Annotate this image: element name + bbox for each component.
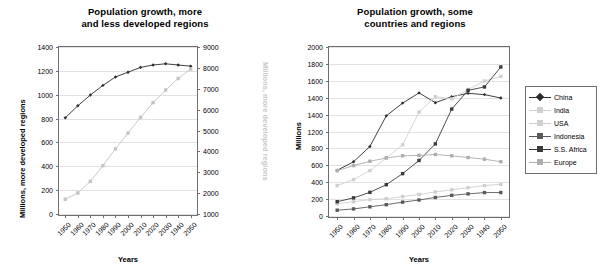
legend-key-square-icon xyxy=(529,157,551,168)
x-axis-tick-mark xyxy=(78,215,79,218)
x-axis-tick-mark xyxy=(191,215,192,218)
right-chart-x-axis-label: Years xyxy=(328,255,510,264)
x-axis-tick-mark xyxy=(386,217,387,220)
x-axis-tick-mark xyxy=(403,217,404,220)
legend-key-marker xyxy=(536,93,544,101)
legend-item-label: USA xyxy=(551,119,568,128)
secondary-y-axis-tick-mark xyxy=(197,89,200,90)
legend-item-china[interactable]: China xyxy=(529,91,593,104)
legend-key-square-icon xyxy=(529,118,551,129)
left-chart-title: Population growth, more and less develop… xyxy=(0,6,290,30)
secondary-y-axis-tick-label: 5000 xyxy=(203,128,219,135)
right-chart-title-line1: Population growth, some xyxy=(285,6,545,18)
secondary-y-axis-tick-mark xyxy=(197,214,200,215)
y-axis-tick-label: 1200 xyxy=(307,129,323,136)
x-axis-tick-mark xyxy=(90,215,91,218)
x-axis-tick-label: 1970 xyxy=(81,221,97,237)
x-axis-tick-mark xyxy=(337,217,338,220)
left-chart-panel: Population growth, more and less develop… xyxy=(0,0,290,276)
secondary-y-axis-tick-label: 4000 xyxy=(203,148,219,155)
x-axis-tick-label: 2030 xyxy=(459,223,475,239)
right-chart-y-axis-label: Millions xyxy=(294,122,303,150)
secondary-y-axis-tick-mark xyxy=(197,172,200,173)
y-axis-tick-label: 400 xyxy=(41,163,53,170)
y-axis-tick-label: 1400 xyxy=(307,112,323,119)
x-axis-tick-mark xyxy=(65,215,66,218)
x-axis-tick-mark xyxy=(141,215,142,218)
secondary-y-axis-tick-mark xyxy=(197,193,200,194)
secondary-y-axis-tick-label: 7000 xyxy=(203,86,219,93)
secondary-y-axis-tick-mark xyxy=(197,110,200,111)
y-axis-tick-label: 1800 xyxy=(307,61,323,68)
y-axis-tick-label: 0 xyxy=(319,213,323,220)
y-axis-tick-label: 200 xyxy=(41,187,53,194)
legend-item-label: S.S. Africa xyxy=(551,145,587,154)
legend-item-label: India xyxy=(551,106,569,115)
y-axis-tick-label: 1200 xyxy=(37,68,53,75)
x-axis-tick-mark xyxy=(178,215,179,218)
series-layer xyxy=(329,47,509,217)
left-chart-y-axis-label: Millions, more developed regions xyxy=(18,99,27,218)
x-axis-tick-mark xyxy=(419,217,420,220)
y-axis-tick-label: 200 xyxy=(311,196,323,203)
x-axis-tick-label: 2020 xyxy=(442,223,458,239)
legend-item-indonesia[interactable]: Indonesia xyxy=(529,130,593,143)
legend-item-s-s-africa[interactable]: S.S. Africa xyxy=(529,143,593,156)
y-axis-tick-label: 2000 xyxy=(307,44,323,51)
left-chart-title-line1: Population growth, more xyxy=(0,6,290,18)
left-chart-x-axis-label: Years xyxy=(58,255,198,264)
x-axis-tick-label: 1950 xyxy=(328,223,344,239)
y-axis-tick-label: 1000 xyxy=(37,92,53,99)
legend-item-europe[interactable]: Europe xyxy=(529,156,593,169)
legend-key-marker xyxy=(537,159,543,165)
x-axis-tick-label: 2050 xyxy=(491,223,507,239)
legend-key-marker xyxy=(537,120,543,126)
legend-item-india[interactable]: India xyxy=(529,104,593,117)
secondary-y-axis-tick-mark xyxy=(197,131,200,132)
x-axis-tick-mark xyxy=(435,217,436,220)
y-axis-tick-label: 400 xyxy=(311,179,323,186)
legend-key-marker xyxy=(537,146,543,152)
left-chart-plot-area: 1400120010008006004002000900080007000600… xyxy=(58,46,198,216)
y-axis-tick-label: 600 xyxy=(311,162,323,169)
x-axis-tick-label: 1970 xyxy=(361,223,377,239)
y-axis-tick-label: 1400 xyxy=(307,95,323,102)
x-axis-tick-label: 2000 xyxy=(119,221,135,237)
charts-page: Population growth, more and less develop… xyxy=(0,0,600,276)
right-chart-title: Population growth, some countries and re… xyxy=(285,6,545,30)
legend-item-label: Indonesia xyxy=(551,132,584,141)
legend-key-square-icon xyxy=(529,105,551,116)
x-axis-tick-mark xyxy=(115,215,116,218)
left-chart-secondary-y-axis-label: Millions, more developed regions xyxy=(261,62,270,181)
secondary-y-axis-tick-label: 6000 xyxy=(203,107,219,114)
x-axis-tick-label: 1990 xyxy=(393,223,409,239)
x-axis-tick-mark xyxy=(484,217,485,220)
x-axis-tick-mark xyxy=(452,217,453,220)
right-chart-plot-area: 2000180016001400140012008006004002000195… xyxy=(328,46,510,218)
x-axis-tick-mark xyxy=(103,215,104,218)
x-axis-tick-mark xyxy=(153,215,154,218)
legend-key-square-icon xyxy=(529,131,551,142)
x-axis-tick-mark xyxy=(501,217,502,220)
y-axis-tick-label: 600 xyxy=(41,139,53,146)
legend-item-usa[interactable]: USA xyxy=(529,117,593,130)
legend-key-marker xyxy=(537,133,543,139)
x-axis-tick-label: 1980 xyxy=(377,223,393,239)
x-axis-tick-mark xyxy=(166,215,167,218)
legend-item-label: China xyxy=(551,93,572,102)
x-axis-tick-mark xyxy=(128,215,129,218)
series-layer xyxy=(59,47,197,215)
x-axis-tick-mark xyxy=(370,217,371,220)
secondary-y-axis-tick-label: 9000 xyxy=(203,44,219,51)
secondary-y-axis-tick-label: 2000 xyxy=(203,190,219,197)
legend-key-square-icon xyxy=(529,144,551,155)
x-axis-tick-label: 1960 xyxy=(344,223,360,239)
secondary-y-axis-tick-label: 1000 xyxy=(203,211,219,218)
series-line xyxy=(337,67,501,202)
secondary-y-axis-tick-label: 3000 xyxy=(203,169,219,176)
x-axis-tick-label: 1950 xyxy=(56,221,72,237)
y-axis-tick-label: 800 xyxy=(311,145,323,152)
y-axis-tick-label: 1600 xyxy=(307,78,323,85)
secondary-y-axis-tick-mark xyxy=(197,151,200,152)
secondary-y-axis-tick-mark xyxy=(197,68,200,69)
